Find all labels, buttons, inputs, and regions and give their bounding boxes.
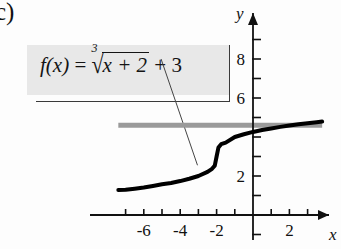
plot-area: 2-6-4-2 268 y x	[0, 0, 341, 249]
x-tick-label: -2	[210, 221, 224, 240]
y-tick-label: 8	[237, 50, 246, 69]
x-tick-label: -4	[173, 221, 188, 240]
y-tick-label: 2	[237, 167, 246, 186]
function-curve	[118, 122, 322, 190]
y-axis-label: y	[234, 4, 244, 23]
y-tick-label: 6	[237, 89, 246, 108]
x-tick-label: -6	[137, 221, 151, 240]
y-axis-tick-labels: 268	[237, 50, 246, 186]
leader-line	[161, 59, 197, 165]
x-axis-tick-labels: 2-6-4-2	[137, 221, 294, 240]
x-axis-label: x	[328, 225, 337, 244]
figure-container: c) f(x) = 3√x + 2 + 3 2-6-4-2 268 y x	[0, 0, 341, 249]
x-axis-arrowhead	[318, 210, 329, 220]
y-axis-arrowhead	[248, 13, 258, 25]
x-tick-label: 2	[285, 221, 294, 240]
